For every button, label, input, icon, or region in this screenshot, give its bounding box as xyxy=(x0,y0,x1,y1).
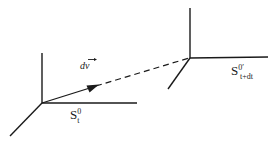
coordinate-frame-diagram: S0t S0′t+dt dv xyxy=(0,0,274,142)
left-coordinate-frame xyxy=(10,53,137,136)
right-frame-diagonal-axis xyxy=(168,58,190,89)
displacement-arrow-shaft xyxy=(42,87,93,103)
right-coordinate-frame xyxy=(168,8,268,89)
displacement-vector-arrow xyxy=(42,85,99,104)
vector-label-v: v xyxy=(85,60,89,71)
right-frame-horizontal-axis xyxy=(190,57,268,58)
left-frame-label-superscript: 0 xyxy=(77,107,81,116)
left-frame-diagonal-axis xyxy=(10,103,42,136)
right-frame-label-superscript: 0′ xyxy=(238,63,244,72)
displacement-vector-label: dv xyxy=(80,61,89,71)
left-frame-label: S0t xyxy=(70,108,79,121)
dashed-connector-line xyxy=(96,58,189,86)
right-frame-label: S0′t+dt xyxy=(231,64,253,77)
vector-label-symbol-wrap: v xyxy=(85,61,89,71)
right-frame-label-subscript: t+dt xyxy=(240,72,253,81)
